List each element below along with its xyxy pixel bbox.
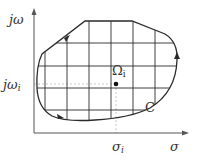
direction-arrow-icon — [57, 114, 64, 119]
omega-i-sub: i — [123, 69, 126, 79]
x-axis-arrow-icon — [182, 131, 189, 136]
y-axis-label: jω — [9, 13, 24, 26]
jomega-i-base: jω — [3, 77, 18, 92]
sigma-i-label: σi — [112, 140, 124, 155]
jomega-i-label: jωi — [3, 78, 21, 93]
projection-lines — [34, 84, 116, 133]
point-omega-i — [114, 82, 119, 87]
contour-label: C — [145, 101, 155, 114]
axes — [34, 12, 184, 133]
jomega-i-sub: i — [18, 83, 21, 93]
direction-arrow-icon — [174, 52, 180, 59]
omega-i-base: Ω — [112, 63, 123, 78]
contour-c — [37, 21, 177, 121]
complex-plane-diagram: jω jωi Ωi C σi σ — [0, 0, 199, 163]
omega-i-label: Ωi — [112, 64, 126, 79]
x-axis-label: σ — [170, 140, 179, 153]
sigma-i-sub: i — [121, 145, 124, 155]
y-axis-arrow-icon — [32, 8, 37, 15]
sigma-i-base: σ — [112, 139, 121, 154]
